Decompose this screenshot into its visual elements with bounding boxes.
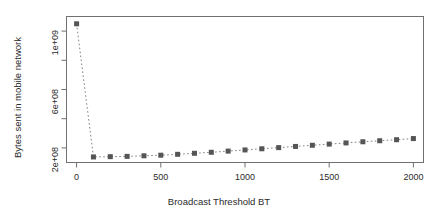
x-axis-ticks bbox=[77, 163, 414, 168]
data-point-marker bbox=[394, 137, 399, 142]
x-tick-label: 2000 bbox=[393, 172, 433, 182]
data-point-marker bbox=[344, 140, 349, 145]
data-point-marker bbox=[192, 151, 197, 156]
data-point-marker bbox=[377, 138, 382, 143]
data-point-marker bbox=[141, 153, 146, 158]
data-point-marker bbox=[209, 150, 214, 155]
data-point-marker bbox=[158, 153, 163, 158]
data-point-marker bbox=[125, 154, 130, 159]
x-tick-label: 1500 bbox=[309, 172, 349, 182]
y-tick-label: 6e+08 bbox=[50, 89, 60, 119]
y-axis-ticks bbox=[62, 31, 67, 148]
x-tick-label: 0 bbox=[57, 172, 97, 182]
data-series bbox=[74, 21, 416, 159]
series-line bbox=[77, 24, 414, 157]
data-point-marker bbox=[226, 149, 231, 154]
data-point-marker bbox=[310, 143, 315, 148]
x-tick-label: 1000 bbox=[225, 172, 265, 182]
data-point-marker bbox=[108, 154, 113, 159]
data-point-marker bbox=[276, 145, 281, 150]
plot-canvas bbox=[0, 0, 438, 218]
x-axis-title: Broadcast Threshold BT bbox=[0, 196, 438, 207]
data-point-marker bbox=[175, 152, 180, 157]
data-point-marker bbox=[360, 139, 365, 144]
data-point-marker bbox=[293, 144, 298, 149]
data-point-marker bbox=[327, 142, 332, 147]
data-point-marker bbox=[411, 136, 416, 141]
data-point-marker bbox=[259, 146, 264, 151]
chart-figure: Bytes sent in mobile network Broadcast T… bbox=[0, 0, 438, 218]
x-tick-label: 500 bbox=[141, 172, 181, 182]
plot-border bbox=[67, 17, 424, 163]
data-point-marker bbox=[91, 154, 96, 159]
data-point-marker bbox=[74, 21, 79, 26]
data-point-marker bbox=[243, 147, 248, 152]
y-axis-title: Bytes sent in mobile network bbox=[12, 23, 23, 173]
plot-frame bbox=[67, 17, 424, 163]
y-tick-label: 1e+09 bbox=[50, 30, 60, 60]
